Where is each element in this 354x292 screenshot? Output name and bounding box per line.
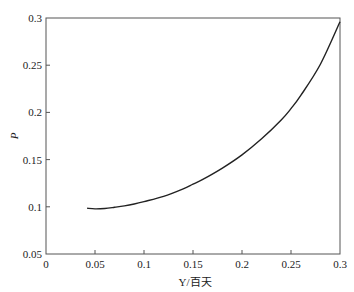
y-tick-label: 0.1 <box>28 201 42 213</box>
x-tick-label: 0.05 <box>85 258 105 270</box>
x-tick-label: 0.1 <box>137 258 151 270</box>
y-tick-label: 0.2 <box>28 106 42 118</box>
chart: 00.050.10.150.20.250.3 0.050.10.150.20.2… <box>0 0 354 292</box>
x-tick-label: 0.15 <box>183 258 203 270</box>
y-tick-label: 0.25 <box>23 59 43 71</box>
y-tick-label: 0.05 <box>23 248 43 260</box>
plot-frame <box>46 18 340 254</box>
x-tick-label: 0 <box>43 258 49 270</box>
y-tick-label: 0.3 <box>28 12 42 24</box>
y-axis-label: P <box>8 132 20 140</box>
data-line-P <box>87 22 340 209</box>
x-axis-ticks: 00.050.10.150.20.250.3 <box>43 250 347 270</box>
y-tick-label: 0.15 <box>23 154 43 166</box>
x-tick-label: 0.2 <box>235 258 249 270</box>
x-tick-label: 0.3 <box>333 258 347 270</box>
x-tick-label: 0.25 <box>281 258 301 270</box>
x-axis-label: Y/百天 <box>179 276 212 288</box>
